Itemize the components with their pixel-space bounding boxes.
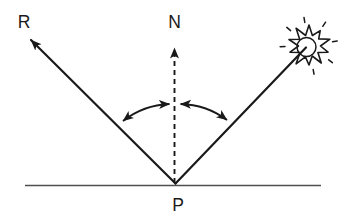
reflection-ray-diagram: R N P xyxy=(0,0,343,219)
label-reflected-ray: R xyxy=(18,12,31,32)
label-normal: N xyxy=(168,12,181,32)
diagram-svg: R N P xyxy=(0,0,343,219)
reflected-ray-line xyxy=(31,40,176,184)
incident-ray-line xyxy=(176,48,307,184)
angle-of-incidence-arc xyxy=(181,104,228,120)
label-point-of-incidence: P xyxy=(172,195,184,215)
angle-of-reflection-arc xyxy=(123,104,170,121)
